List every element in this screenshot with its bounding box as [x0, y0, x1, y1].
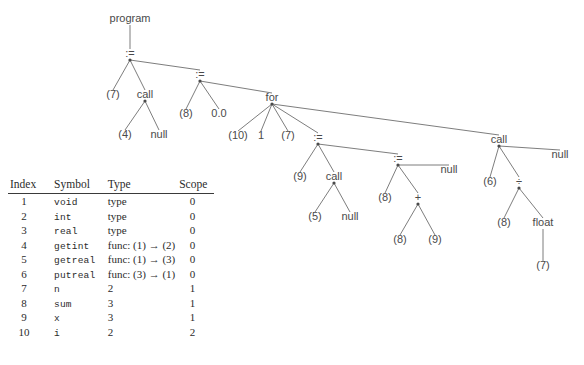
- cell-type: 2: [108, 325, 179, 340]
- cell-index: 10: [8, 325, 48, 340]
- tree-node-label-program: program: [110, 12, 151, 24]
- tree-node-label-n7a: (7): [106, 88, 119, 100]
- cell-index: 6: [8, 267, 48, 282]
- cell-scope: 1: [179, 310, 214, 325]
- cell-type: func: (1) → (2): [108, 238, 179, 253]
- column-header-scope: Scope: [179, 178, 214, 194]
- table-row: 7n21: [8, 281, 214, 296]
- tree-node-label-call3: call: [491, 133, 508, 145]
- tree-edge: [272, 104, 318, 133]
- tree-edge: [334, 183, 350, 212]
- tree-edge: [398, 165, 418, 193]
- tree-node-label-n6: (6): [483, 175, 496, 187]
- tree-node-label-n4: (4): [118, 128, 131, 140]
- tree-edge: [186, 81, 200, 109]
- table-row: 10i22: [8, 325, 214, 340]
- tree-edge: [318, 144, 334, 172]
- cell-scope: 0: [179, 194, 214, 209]
- tree-edge: [400, 204, 418, 235]
- cell-index: 9: [8, 310, 48, 325]
- cell-type: 3: [108, 296, 179, 311]
- tree-edge: [315, 183, 334, 212]
- cell-symbol: x: [48, 310, 108, 325]
- cell-type: func: (3) → (1): [108, 267, 179, 282]
- symbol-table-head: Index Symbol Type Scope: [8, 178, 214, 194]
- table-row: 2inttype0: [8, 209, 214, 224]
- cell-symbol: real: [48, 223, 108, 238]
- tree-node-label-n5: (5): [308, 210, 321, 222]
- symbol-table-container: Index Symbol Type Scope 1voidtype02intty…: [8, 178, 214, 339]
- table-row: 9x31: [8, 310, 214, 325]
- tree-edge: [125, 101, 145, 130]
- cell-scope: 0: [179, 223, 214, 238]
- tree-node-label-float: float: [533, 216, 554, 228]
- symbol-table-body: 1voidtype02inttype03realtype04getintfunc…: [8, 194, 214, 340]
- tree-edge: [200, 81, 272, 93]
- cell-symbol: sum: [48, 296, 108, 311]
- tree-edge: [130, 60, 200, 70]
- tree-edge: [130, 60, 145, 90]
- cell-index: 5: [8, 252, 48, 267]
- tree-edge: [418, 204, 435, 235]
- cell-scope: 0: [179, 209, 214, 224]
- tree-edge: [385, 165, 398, 193]
- cell-symbol: getreal: [48, 252, 108, 267]
- cell-symbol: getint: [48, 238, 108, 253]
- tree-node-label-call2: call: [326, 170, 343, 182]
- tree-edge: [318, 144, 398, 154]
- column-header-symbol: Symbol: [48, 178, 108, 194]
- tree-node-label-assign4: :=: [393, 152, 402, 164]
- tree-node-label-null3: null: [440, 163, 457, 175]
- tree-edge: [504, 188, 519, 218]
- cell-index: 1: [8, 194, 48, 209]
- tree-node-label-n9a: (9): [293, 170, 306, 182]
- table-row: 5getrealfunc: (1) → (3)0: [8, 252, 214, 267]
- tree-node-label-n10: (10): [228, 129, 248, 141]
- cell-symbol: putreal: [48, 267, 108, 282]
- tree-edge: [490, 146, 499, 177]
- cell-scope: 1: [179, 296, 214, 311]
- tree-edge: [200, 81, 219, 109]
- tree-node-label-assign1: :=: [125, 47, 134, 59]
- tree-node-label-div: ÷: [516, 175, 522, 187]
- cell-type: type: [108, 209, 179, 224]
- tree-edge: [499, 146, 519, 177]
- tree-node-label-one: 1: [258, 129, 264, 141]
- cell-symbol: void: [48, 194, 108, 209]
- cell-scope: 0: [179, 238, 214, 253]
- symbol-table: Index Symbol Type Scope 1voidtype02intty…: [8, 178, 214, 339]
- cell-index: 7: [8, 281, 48, 296]
- table-row: 6putrealfunc: (3) → (1)0: [8, 267, 214, 282]
- cell-symbol: int: [48, 209, 108, 224]
- tree-node-label-call1: call: [137, 88, 154, 100]
- tree-node-label-assign3: :=: [313, 131, 322, 143]
- cell-index: 8: [8, 296, 48, 311]
- tree-node-label-for: for: [266, 91, 279, 103]
- tree-node-label-n8c: (8): [393, 233, 406, 245]
- tree-node-label-n7b: (7): [281, 129, 294, 141]
- tree-node-label-null2: null: [341, 210, 358, 222]
- tree-node-label-plus: +: [415, 191, 421, 203]
- tree-node-label-n7c: (7): [536, 259, 549, 271]
- tree-edge: [145, 101, 159, 130]
- cell-type: type: [108, 194, 179, 209]
- cell-type: 3: [108, 310, 179, 325]
- table-row: 3realtype0: [8, 223, 214, 238]
- cell-type: func: (1) → (3): [108, 252, 179, 267]
- cell-scope: 0: [179, 252, 214, 267]
- tree-node-label-null4: null: [551, 148, 568, 160]
- cell-type: 2: [108, 281, 179, 296]
- cell-symbol: i: [48, 325, 108, 340]
- table-row: 1voidtype0: [8, 194, 214, 209]
- tree-node-label-null1: null: [150, 128, 167, 140]
- tree-edge: [272, 104, 288, 131]
- symbol-table-header-row: Index Symbol Type Scope: [8, 178, 214, 194]
- table-row: 8sum31: [8, 296, 214, 311]
- cell-index: 2: [8, 209, 48, 224]
- cell-scope: 0: [179, 267, 214, 282]
- tree-node-label-zero: 0.0: [211, 107, 226, 119]
- tree-edge: [300, 144, 318, 172]
- cell-index: 3: [8, 223, 48, 238]
- cell-symbol: n: [48, 281, 108, 296]
- cell-scope: 1: [179, 281, 214, 296]
